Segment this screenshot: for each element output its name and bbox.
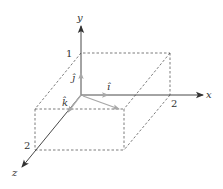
k-hat-label: k̂ <box>62 96 68 108</box>
y-tick-label: 1 <box>66 48 72 59</box>
box-edges <box>35 53 170 150</box>
diagonal-vector <box>83 96 119 109</box>
axes <box>22 26 203 167</box>
z-axis-label: z <box>11 167 18 178</box>
j-hat-label: ĵ <box>70 72 76 83</box>
z-tick-label: 2 <box>24 140 30 151</box>
x-tick-label: 2 <box>171 98 177 109</box>
k-hat-vector <box>68 95 81 112</box>
unit-vectors <box>68 73 119 112</box>
i-hat-label: î <box>107 81 111 92</box>
x-axis-label: x <box>206 89 212 100</box>
y-axis-label: y <box>76 12 83 23</box>
coordinate-diagram: y x z 1 2 2 ĵ î k̂ <box>0 0 223 189</box>
